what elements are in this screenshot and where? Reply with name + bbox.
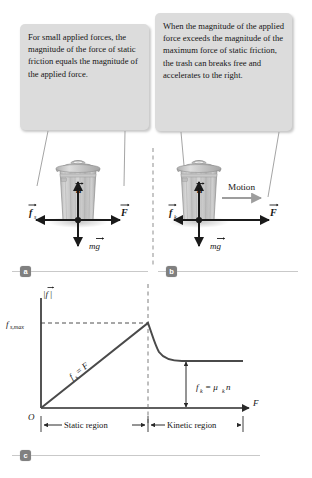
- weight-label: mg: [89, 241, 100, 251]
- badge-rule: [31, 271, 148, 272]
- graph-axis-labels: |f | F O: [28, 286, 259, 422]
- panel-c-badge-row: c: [12, 450, 260, 461]
- region-indicators: Static region Kinetic region: [41, 416, 243, 432]
- svg-text:n: n: [226, 382, 231, 392]
- panel-b-free-body-diagram: Motion n f k F mg: [156, 148, 312, 260]
- origin-label: O: [28, 412, 35, 422]
- x-axis-label: F: [252, 398, 259, 408]
- badge-rule: [177, 271, 298, 272]
- svg-text:k: k: [222, 388, 225, 394]
- badge-rule-left: [158, 271, 166, 272]
- y-tick-label-sub: s,max: [10, 324, 24, 330]
- force-origin-dot: [196, 217, 202, 223]
- badge-rule-left: [12, 455, 20, 456]
- badge-rule-left: [12, 271, 20, 272]
- panel-a-badge-row: a: [12, 266, 148, 277]
- svg-text:= F: = F: [73, 360, 90, 377]
- y-axis-label: |f |: [43, 289, 52, 299]
- graph-guides: [41, 284, 148, 423]
- normal-force-label: n: [76, 184, 82, 195]
- kinetic-friction-subscript: k: [174, 214, 177, 220]
- static-region-label: Static region: [64, 420, 108, 430]
- panel-badge-c: c: [20, 450, 31, 461]
- friction-vs-applied-force-graph: |f | F O f s,max f s = F f k: [0, 282, 312, 447]
- static-friction-subscript: s: [34, 214, 37, 220]
- svg-text:= μ: = μ: [205, 382, 218, 392]
- y-tick-label-group: f s,max: [6, 319, 24, 330]
- badge-rule: [31, 455, 260, 456]
- panel-badge-a: a: [20, 266, 31, 277]
- panel-badge-b: b: [166, 266, 177, 277]
- panel-a-free-body-diagram: n f s F mg: [0, 148, 156, 260]
- panel-b-badge-row: b: [158, 266, 298, 277]
- kinetic-branch-label: f k = μ k n: [186, 362, 231, 407]
- normal-force-label: n: [197, 184, 203, 195]
- friction-figure: For small applied forces, the magnitude …: [0, 0, 312, 478]
- force-origin-dot: [75, 217, 81, 223]
- kinetic-region-label: Kinetic region: [167, 420, 217, 430]
- applied-force-label: F: [269, 207, 277, 218]
- applied-force-label: F: [120, 207, 128, 218]
- motion-label: Motion: [228, 182, 255, 192]
- weight-label: mg: [210, 241, 221, 251]
- friction-curve: [41, 323, 243, 408]
- svg-text:k: k: [200, 388, 203, 394]
